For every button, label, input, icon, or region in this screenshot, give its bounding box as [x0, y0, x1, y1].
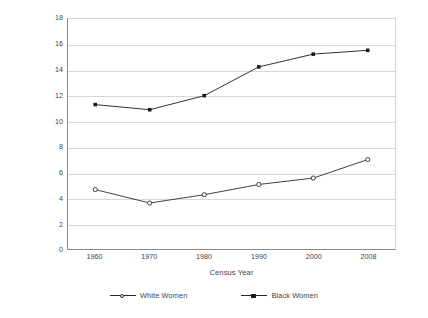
x-axis-tick-labels: 196019701980199020002008	[67, 252, 396, 264]
open-circle-icon	[120, 294, 124, 298]
legend-marker-icon	[110, 291, 136, 300]
data-point	[257, 65, 261, 69]
legend-label: White Women	[140, 291, 187, 300]
x-axis-tick-label: 1990	[237, 252, 281, 261]
x-axis-tick-label: 1970	[127, 252, 171, 261]
y-axis-tick-label: 4	[44, 195, 63, 202]
series-black-women	[93, 49, 369, 112]
y-axis-tick-label: 14	[44, 66, 63, 73]
y-axis-tick-label: 8	[44, 143, 63, 150]
data-point	[257, 182, 261, 186]
data-point	[202, 94, 206, 98]
data-point	[366, 49, 370, 53]
y-axis-tick-label: 0	[44, 246, 63, 253]
data-point	[93, 188, 97, 192]
data-point	[366, 157, 370, 161]
legend-item-black-women[interactable]: Black Women	[241, 291, 318, 300]
line-chart: Percentage of Clerical Workers At or Bel…	[0, 0, 428, 318]
data-point	[202, 193, 206, 197]
data-point	[148, 108, 152, 112]
legend-marker-icon	[241, 291, 267, 300]
plot-area	[67, 18, 396, 250]
data-point	[311, 176, 315, 180]
y-axis-tick-labels: 181614121086420	[44, 18, 63, 250]
y-axis-tick-label: 18	[44, 14, 63, 21]
chart-legend: White WomenBlack Women	[0, 291, 428, 300]
series-line	[95, 50, 367, 109]
y-axis-tick-label: 2	[44, 221, 63, 228]
series-layer	[68, 19, 395, 249]
data-point	[148, 201, 152, 205]
data-point	[93, 103, 97, 107]
data-point	[311, 52, 315, 56]
y-axis-tick-label: 6	[44, 169, 63, 176]
x-axis-tick-label: 2008	[347, 252, 391, 261]
legend-label: Black Women	[271, 291, 318, 300]
x-axis-tick-label: 1960	[72, 252, 116, 261]
series-white-women	[93, 157, 370, 205]
x-axis-title: Census Year	[67, 268, 396, 277]
y-axis-tick-label: 16	[44, 40, 63, 47]
y-axis-tick-label: 12	[44, 92, 63, 99]
y-axis-tick-label: 10	[44, 118, 63, 125]
series-line	[95, 160, 367, 203]
legend-item-white-women[interactable]: White Women	[110, 291, 187, 300]
x-axis-tick-label: 1980	[182, 252, 226, 261]
filled-square-icon	[251, 294, 256, 299]
x-axis-tick-label: 2000	[292, 252, 336, 261]
